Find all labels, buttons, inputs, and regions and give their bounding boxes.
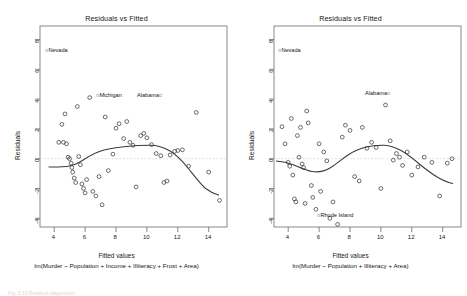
plot-canvas-right [234,0,467,288]
x-tick-label: 14 [205,234,212,240]
x-tick-label: 10 [143,234,150,240]
plot-box-left [40,26,227,227]
point-annotation-nevada: ○Nevada [45,47,68,53]
y-tick-label: -2 [268,189,274,194]
y-tick-label: 0 [268,159,274,162]
model-formula-left: lm(Murder ~ Population + Income + Illite… [0,262,233,269]
plot-panel-left: Residuals vs Fitted [0,0,233,288]
y-tick-label: 8 [268,40,274,43]
x-tick-label: 8 [348,234,351,240]
y-tick-label: 0 [34,159,40,162]
point-annotation-alabama: Alabama○ [365,90,390,96]
x-tick-label: 12 [174,234,181,240]
x-tick-label: 4 [286,234,289,240]
x-tick-label: 4 [52,234,55,240]
loess-smoother-left [49,145,219,195]
y-tick-label: 4 [34,100,40,103]
annotation-marker-icon: ○ [159,92,162,98]
x-tick-label: 6 [83,234,86,240]
point-annotation-alabama: Alabama○ [137,92,162,98]
y-tick-label: 6 [34,70,40,73]
x-tick-label: 6 [317,234,320,240]
x-tick-label: 12 [408,234,415,240]
x-axis-title-left: Fitted values [0,252,233,259]
plot-panel-right: Residuals vs Fitted [234,0,467,288]
y-tick-label: -4 [268,219,274,224]
point-annotation-rhode-island: ○Rhode Island [317,212,353,218]
x-axis-title-right: Fitted values [234,252,467,259]
y-axis-title-right: Residuals [248,131,255,160]
loess-smoother-right [276,145,453,183]
scatter-points-left [57,96,222,207]
y-tick-label: -2 [34,189,40,194]
scatter-points-right [280,103,454,226]
point-annotation-nevada: ○Nevada [278,47,301,53]
x-tick-label: 14 [439,234,446,240]
y-axis-title-left: Residuals [14,131,21,160]
annotation-marker-icon: ○ [387,90,390,96]
model-formula-right: lm(Murder ~ Population + Illiteracy + Ar… [234,262,467,269]
y-tick-label: 2 [34,129,40,132]
point-annotation-michigan: ○Michigan [96,92,122,98]
plot-canvas-left [0,0,233,288]
x-tick-label: 10 [377,234,384,240]
x-tick-marks-right [288,227,443,232]
figure-residual-diagnostics: Residuals vs Fitted [0,0,467,296]
y-tick-label: 2 [268,129,274,132]
x-tick-label: 8 [114,234,117,240]
y-tick-label: 8 [34,40,40,43]
y-tick-label: 4 [268,100,274,103]
x-tick-marks-left [54,227,209,232]
y-tick-label: -4 [34,219,40,224]
figure-caption: Fig. 3.13 Residual diagnostics [8,290,75,296]
y-tick-label: 6 [268,70,274,73]
